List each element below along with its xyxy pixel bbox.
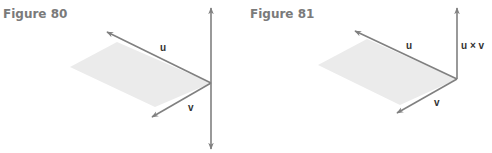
vector-v-label: v bbox=[434, 97, 440, 108]
vector-v-label: v bbox=[188, 102, 194, 113]
figure-80-diagram: u v bbox=[0, 0, 246, 153]
vector-u-label: u bbox=[406, 40, 412, 51]
figure-81: Figure 81 u u × v v bbox=[246, 0, 492, 153]
parallelogram-plane bbox=[318, 39, 457, 105]
parallelogram-plane bbox=[70, 42, 211, 107]
figure-80: Figure 80 u v bbox=[0, 0, 246, 153]
vector-u-label: u bbox=[160, 42, 166, 53]
figure-81-diagram: u u × v v bbox=[246, 0, 492, 153]
cross-product-label: u × v bbox=[461, 40, 485, 51]
